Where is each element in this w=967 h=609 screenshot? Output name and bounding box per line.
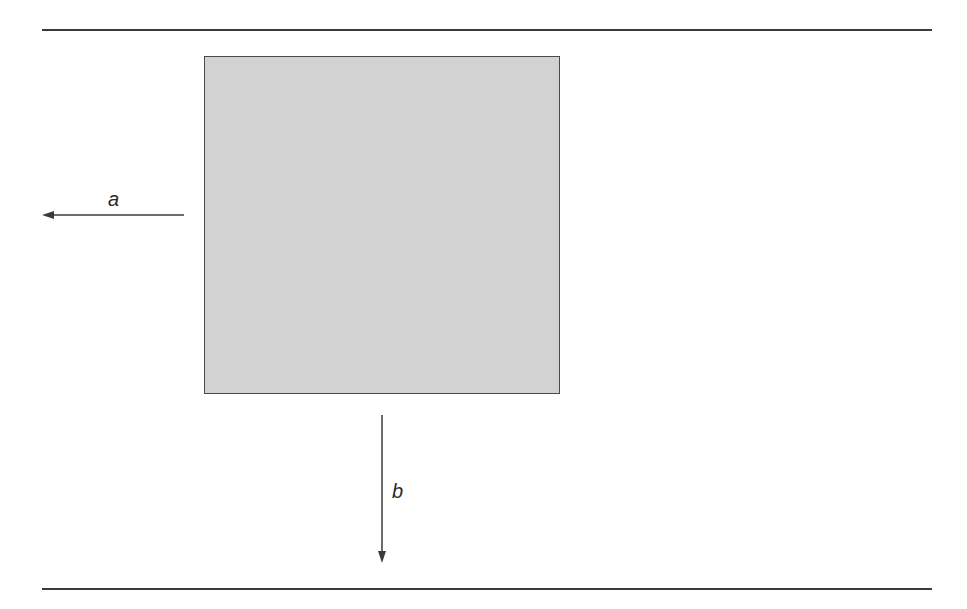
label-a: a	[108, 188, 119, 211]
arrows-layer	[0, 0, 967, 609]
label-b: b	[392, 480, 403, 503]
arrow-b-down-icon	[378, 415, 386, 563]
arrow-a-left-icon	[42, 211, 184, 219]
